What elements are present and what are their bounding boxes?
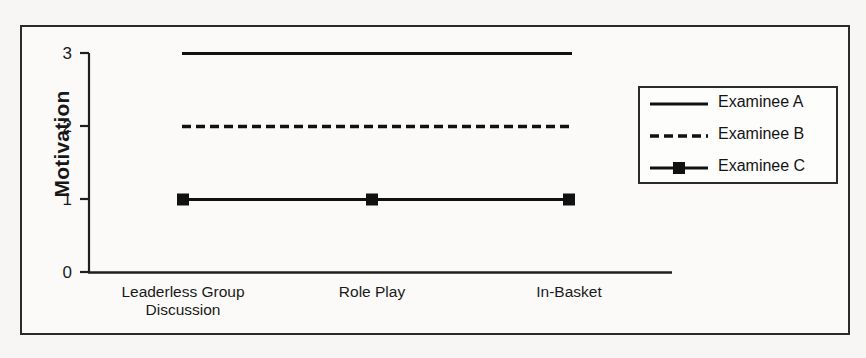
x-tick-label-line-2: Discussion bbox=[102, 301, 264, 319]
chart-plot-area: Motivation 3 2 1 0 Leaderless Group Disc… bbox=[0, 0, 866, 358]
legend-item-examinee-c: Examinee C bbox=[640, 152, 836, 184]
y-tick-label-0: 0 bbox=[50, 263, 72, 283]
x-tick-label-role-play: Role Play bbox=[306, 283, 438, 301]
x-tick-label-line-1: Role Play bbox=[306, 283, 438, 301]
y-tick-label-3: 3 bbox=[50, 44, 72, 64]
chart-legend: Examinee A Examinee B Examinee C bbox=[638, 86, 838, 184]
series-marker-examinee-c-1 bbox=[177, 194, 189, 206]
y-tick-label-1: 1 bbox=[50, 190, 72, 210]
legend-item-examinee-a: Examinee A bbox=[640, 88, 836, 120]
legend-swatch-dashed-line bbox=[648, 120, 710, 152]
y-tick-label-2: 2 bbox=[50, 117, 72, 137]
x-tick-label-line-1: Leaderless Group bbox=[102, 283, 264, 301]
x-tick-label-in-basket: In-Basket bbox=[496, 283, 642, 301]
legend-label-examinee-b: Examinee B bbox=[718, 125, 804, 143]
legend-item-examinee-b: Examinee B bbox=[640, 120, 836, 152]
legend-label-examinee-c: Examinee C bbox=[718, 157, 805, 175]
series-marker-examinee-c-3 bbox=[563, 194, 575, 206]
x-tick-label-leaderless-group-discussion: Leaderless Group Discussion bbox=[102, 283, 264, 320]
legend-swatch-square-marker-line bbox=[648, 152, 710, 184]
legend-label-examinee-a: Examinee A bbox=[718, 93, 803, 111]
series-marker-examinee-c-2 bbox=[366, 194, 378, 206]
figure-screenshot: Motivation 3 2 1 0 Leaderless Group Disc… bbox=[0, 0, 866, 358]
x-tick-label-line-1: In-Basket bbox=[496, 283, 642, 301]
legend-swatch-solid-line bbox=[648, 88, 710, 120]
